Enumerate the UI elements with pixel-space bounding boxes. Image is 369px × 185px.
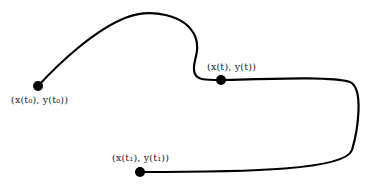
- parametric-curve-path: [38, 13, 359, 172]
- middle-point-label: (x(t), y(t)): [207, 61, 256, 72]
- end-point: [135, 167, 145, 177]
- middle-point: [216, 75, 226, 85]
- start-point: [33, 81, 43, 91]
- end-point-label: (x(t₁), y(t₁)): [112, 152, 169, 163]
- parametric-curve-diagram: (x(t₀), y(t₀)) (x(t), y(t)) (x(t₁), y(t₁…: [0, 0, 369, 185]
- curve-svg: [0, 0, 369, 185]
- start-point-label: (x(t₀), y(t₀)): [11, 94, 68, 105]
